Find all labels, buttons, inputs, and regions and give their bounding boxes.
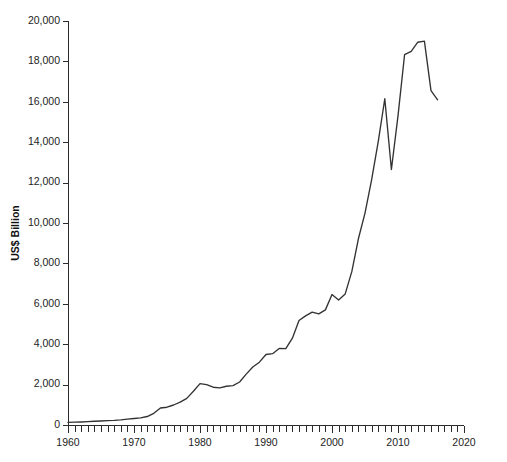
y-axis-tick-label: 0 <box>54 418 60 430</box>
y-axis-title: US$ Billion <box>9 205 21 260</box>
x-axis-tick-label: 2020 <box>452 436 476 448</box>
x-axis-tick-label: 1970 <box>122 436 146 448</box>
data-series-line <box>68 41 438 422</box>
y-axis-tick-label: 8,000 <box>34 256 60 268</box>
y-axis-tick-label: 4,000 <box>34 337 60 349</box>
line-chart: US$ Billion 02,0004,0006,0008,00010,0001… <box>0 0 507 462</box>
x-axis-tick-label: 1980 <box>188 436 212 448</box>
y-axis-tick-label: 14,000 <box>28 135 60 147</box>
x-axis-minor-ticks <box>69 426 465 433</box>
y-axis-tick-label: 2,000 <box>34 377 60 389</box>
y-axis-tick-label: 18,000 <box>28 54 60 66</box>
y-axis-tick-labels: 02,0004,0006,0008,00010,00012,00014,0001… <box>28 14 60 430</box>
y-axis-tick-label: 16,000 <box>28 95 60 107</box>
x-axis-tick-labels: 1960197019801990200020102020 <box>56 436 476 448</box>
x-axis-tick-label: 2010 <box>386 436 410 448</box>
y-axis-tick-label: 10,000 <box>28 216 60 228</box>
chart-container: US$ Billion 02,0004,0006,0008,00010,0001… <box>0 0 507 462</box>
y-axis-tick-label: 6,000 <box>34 297 60 309</box>
y-axis-tick-marks <box>63 22 68 426</box>
x-axis-tick-label: 2000 <box>320 436 344 448</box>
x-axis-tick-label: 1960 <box>56 436 80 448</box>
y-axis-tick-label: 12,000 <box>28 175 60 187</box>
x-axis-tick-label: 1990 <box>254 436 278 448</box>
y-axis-tick-label: 20,000 <box>28 14 60 26</box>
